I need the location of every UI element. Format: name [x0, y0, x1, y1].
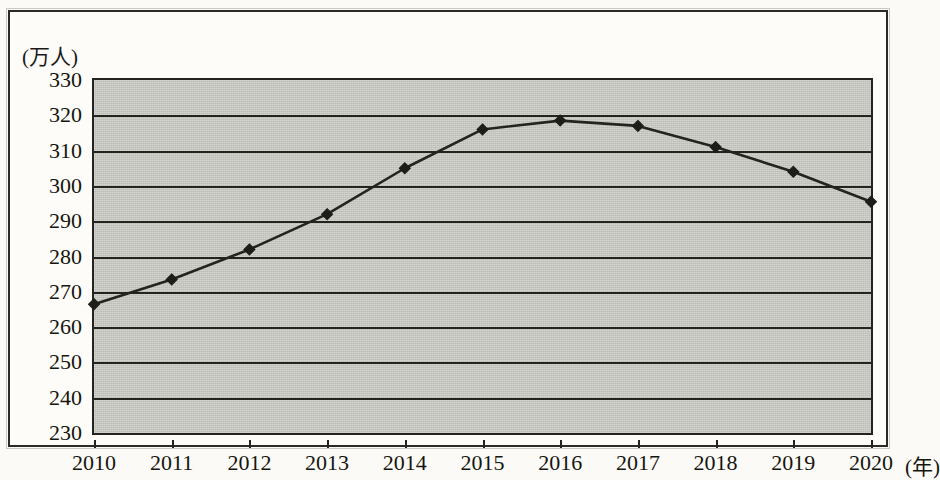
- x-axis-unit-label: (年): [905, 450, 940, 480]
- y-axis-tick-label: 270: [49, 279, 82, 305]
- x-axis-tick-mark: [638, 440, 640, 449]
- data-point-marker: [244, 244, 255, 255]
- x-axis-tick-mark: [871, 440, 873, 449]
- x-axis-tick-mark: [327, 440, 329, 449]
- data-point-marker: [866, 196, 877, 207]
- x-axis-tick-label: 2017: [616, 450, 660, 476]
- y-axis-tick-label: 330: [49, 67, 82, 93]
- data-point-marker: [633, 120, 644, 131]
- data-point-marker: [710, 142, 721, 153]
- data-point-marker: [399, 163, 410, 174]
- x-axis-tick-label: 2012: [227, 450, 271, 476]
- x-axis-tick-label: 2014: [383, 450, 427, 476]
- y-axis-tick-label: 240: [49, 385, 82, 411]
- x-axis-tick-label: 2015: [461, 450, 505, 476]
- x-axis-tick-mark: [172, 440, 174, 449]
- x-axis-tick-label: 2019: [771, 450, 815, 476]
- series-line: [94, 121, 871, 305]
- y-axis-tick-label: 230: [49, 420, 82, 446]
- y-axis-unit-label: (万人): [22, 40, 78, 70]
- x-axis-tick-mark: [483, 440, 485, 449]
- x-axis-tick-mark: [560, 440, 562, 449]
- y-axis-tick-label: 260: [49, 314, 82, 340]
- y-axis-tick-label: 250: [49, 349, 82, 375]
- x-axis-tick-label: 2016: [538, 450, 582, 476]
- x-axis-tick-mark: [94, 440, 96, 449]
- x-axis-tick-labels: 2010201120122013201420152016201720182019…: [92, 440, 873, 474]
- x-axis-tick-label: 2013: [305, 450, 349, 476]
- x-axis-tick-label: 2010: [72, 450, 116, 476]
- y-axis-tick-label: 320: [49, 102, 82, 128]
- chart-frame: (万人) 330320310300290280270260250240230 2…: [8, 10, 888, 447]
- y-axis-tick-label: 300: [49, 173, 82, 199]
- x-axis-tick-mark: [716, 440, 718, 449]
- data-point-marker: [89, 299, 100, 310]
- y-axis-tick-label: 290: [49, 208, 82, 234]
- x-axis-tick-label: 2020: [849, 450, 893, 476]
- x-axis-tick-mark: [793, 440, 795, 449]
- plot-area: [92, 78, 873, 435]
- data-point-marker: [555, 115, 566, 126]
- x-axis-tick-mark: [249, 440, 251, 449]
- data-point-marker: [788, 166, 799, 177]
- y-axis-tick-label: 280: [49, 244, 82, 270]
- data-point-marker: [477, 124, 488, 135]
- gridline: [94, 433, 871, 435]
- data-point-marker: [166, 274, 177, 285]
- y-axis-tick-label: 310: [49, 138, 82, 164]
- x-axis-tick-mark: [405, 440, 407, 449]
- line-series: [94, 80, 871, 433]
- data-point-marker: [322, 209, 333, 220]
- x-axis-tick-label: 2018: [694, 450, 738, 476]
- x-axis-tick-label: 2011: [150, 450, 193, 476]
- y-axis-tick-labels: 330320310300290280270260250240230: [10, 78, 82, 435]
